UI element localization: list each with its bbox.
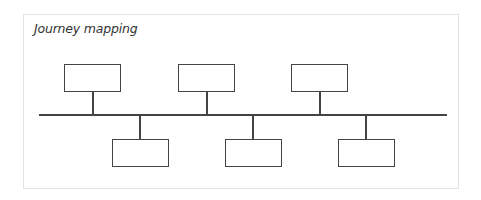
- bottom-connector-2: [252, 115, 254, 139]
- top-connector-1: [92, 92, 94, 115]
- top-node-1: [64, 64, 121, 92]
- top-connector-2: [206, 92, 208, 115]
- bottom-node-3: [338, 139, 395, 167]
- bottom-connector-3: [365, 115, 367, 139]
- timeline-axis: [39, 114, 447, 116]
- bottom-connector-1: [139, 115, 141, 139]
- diagram-title: Journey mapping: [34, 21, 137, 36]
- top-node-2: [178, 64, 235, 92]
- top-node-3: [291, 64, 348, 92]
- bottom-node-2: [225, 139, 282, 167]
- top-connector-3: [319, 92, 321, 115]
- bottom-node-1: [112, 139, 169, 167]
